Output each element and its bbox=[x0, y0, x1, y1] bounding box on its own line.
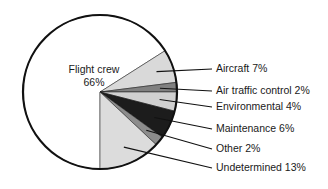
legend-label-environmental[interactable]: Environmental 4% bbox=[216, 100, 301, 112]
flight-crew-label-line1: Flight crew bbox=[69, 63, 120, 75]
legend-label-aircraft[interactable]: Aircraft 7% bbox=[216, 62, 267, 74]
pie-chart-figure: Flight crew 66% Aircraft 7% Air traffic … bbox=[0, 0, 328, 189]
pie-chart-svg: Flight crew 66% Aircraft 7% Air traffic … bbox=[0, 0, 328, 189]
flight-crew-label-line2: 66% bbox=[83, 76, 104, 88]
legend: Aircraft 7% Air traffic control 2% Envir… bbox=[216, 62, 310, 173]
legend-label-undetermined[interactable]: Undetermined 13% bbox=[216, 161, 306, 173]
legend-label-maintenance[interactable]: Maintenance 6% bbox=[216, 122, 294, 134]
legend-label-other[interactable]: Other 2% bbox=[216, 142, 260, 154]
legend-label-air-traffic-control[interactable]: Air traffic control 2% bbox=[216, 84, 310, 96]
